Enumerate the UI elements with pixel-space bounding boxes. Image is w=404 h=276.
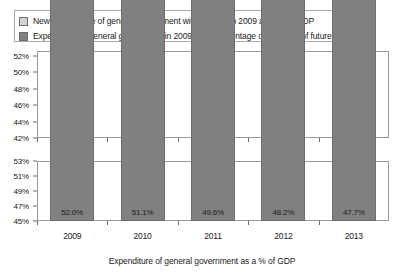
y-axis-stacked-chart: 42%44%46%48%50%52% [0, 48, 34, 153]
x-tick-mark [37, 221, 38, 225]
bar-value-label: 51.1% [132, 208, 154, 217]
axis-title: Expenditure of general government as a %… [0, 256, 404, 266]
y-tick-mark [33, 191, 37, 192]
y-tick-mark [33, 105, 37, 106]
y-tick-label: 52% [14, 51, 29, 60]
x-tick-label: 2009 [63, 231, 81, 241]
y-tick-label: 47% [14, 202, 29, 211]
bar-group-2012[interactable]: 48.2% [261, 0, 305, 221]
x-tick-mark [319, 138, 320, 142]
y-axis-totals-chart: 45%47%49%51%53% [0, 158, 34, 253]
bar-value-label: 52.0% [61, 208, 83, 217]
bar-group-2011[interactable]: 49.6% [191, 0, 235, 221]
x-tick-label: 2012 [274, 231, 292, 241]
y-tick-mark [33, 121, 37, 122]
x-tick-label: 2013 [345, 231, 363, 241]
y-tick-mark [33, 161, 37, 162]
y-tick-mark [33, 55, 37, 56]
y-tick-label: 45% [14, 217, 29, 226]
legend-swatch-2009-expenditure [19, 32, 28, 41]
totals-bar-chart: 45%47%49%51%53% 20092010201120122013 52.… [0, 158, 404, 253]
y-tick-mark [33, 72, 37, 73]
x-tick-mark [107, 221, 108, 225]
y-tick-mark [33, 206, 37, 207]
y-tick-mark [33, 88, 37, 89]
y-tick-label: 51% [14, 172, 29, 181]
legend-swatch-new-expenditure [19, 17, 28, 26]
bar-segment[interactable]: 48.2% [261, 0, 305, 221]
x-tick-mark [319, 221, 320, 225]
x-tick-mark [37, 138, 38, 142]
y-tick-label: 50% [14, 68, 29, 77]
bar-segment[interactable]: 47.7% [332, 0, 376, 221]
y-tick-label: 49% [14, 187, 29, 196]
bar-group-2013[interactable]: 47.7% [332, 0, 376, 221]
bar-value-label: 48.2% [273, 208, 295, 217]
bar-segment[interactable]: 49.6% [191, 0, 235, 221]
x-tick-mark [178, 221, 179, 225]
bar-value-label: 49.6% [202, 208, 224, 217]
bar-segment[interactable]: 52.0% [50, 0, 94, 221]
x-tick-mark [107, 138, 108, 142]
x-tick-mark [248, 221, 249, 225]
x-tick-mark [248, 138, 249, 142]
x-tick-label: 2011 [204, 231, 221, 241]
y-tick-label: 44% [14, 117, 29, 126]
y-tick-label: 53% [14, 157, 29, 166]
y-tick-label: 46% [14, 101, 29, 110]
bar-segment[interactable]: 51.1% [121, 0, 165, 221]
x-tick-mark [178, 138, 179, 142]
bar-value-label: 47.7% [343, 208, 365, 217]
x-tick-label: 2010 [134, 231, 152, 241]
y-tick-label: 42% [14, 134, 29, 143]
bar-group-2010[interactable]: 51.1% [121, 0, 165, 221]
bar-group-2009[interactable]: 52.0% [50, 0, 94, 221]
y-tick-label: 48% [14, 84, 29, 93]
y-tick-mark [33, 176, 37, 177]
